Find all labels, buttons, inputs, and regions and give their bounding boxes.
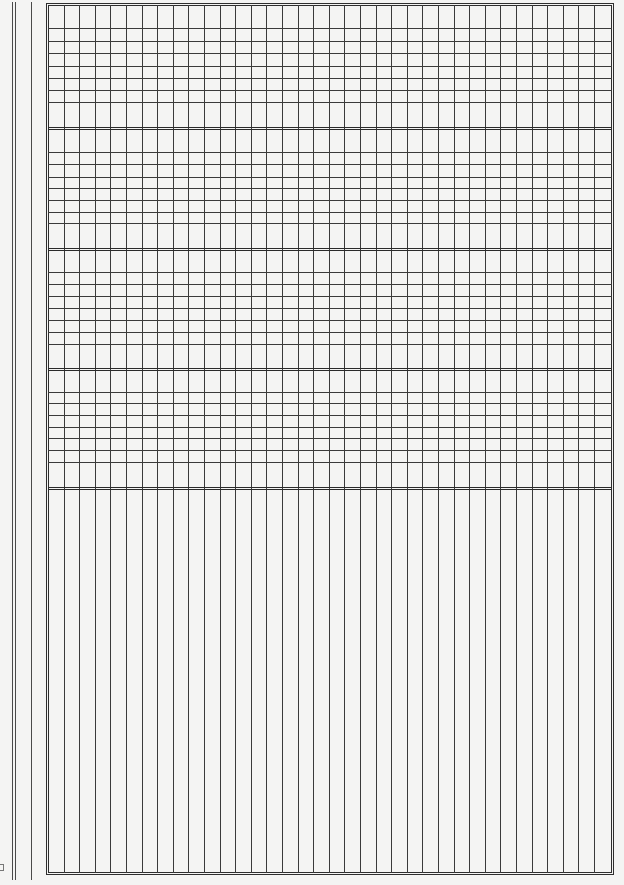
graph-paper-page bbox=[0, 0, 624, 885]
cycle-boundary-line bbox=[48, 248, 612, 249]
cycle-boundary-line bbox=[48, 127, 612, 128]
margin-rule-2 bbox=[15, 2, 16, 880]
grid-column-line bbox=[500, 5, 501, 873]
minor-grid-line bbox=[48, 427, 612, 428]
margin-rule-1 bbox=[12, 2, 13, 880]
minor-grid-line bbox=[48, 308, 612, 309]
grid-column-line bbox=[313, 5, 314, 873]
grid-column-line bbox=[391, 5, 392, 873]
minor-grid-line bbox=[48, 284, 612, 285]
minor-grid-line bbox=[48, 438, 612, 439]
grid-column-line bbox=[469, 5, 470, 873]
grid-column-line bbox=[126, 5, 127, 873]
minor-grid-line bbox=[48, 344, 612, 345]
grid-column-line bbox=[173, 5, 174, 873]
grid-column-line bbox=[157, 5, 158, 873]
grid-column-line bbox=[110, 5, 111, 873]
grid-column-line bbox=[298, 5, 299, 873]
grid-column-line bbox=[454, 5, 455, 873]
grid-column-line bbox=[485, 5, 486, 873]
minor-grid-line bbox=[48, 320, 612, 321]
cycle-boundary-line bbox=[48, 489, 612, 490]
grid-column-line bbox=[563, 5, 564, 873]
grid-column-line bbox=[282, 5, 283, 873]
grid-column-line bbox=[188, 5, 189, 873]
minor-grid-line bbox=[48, 200, 612, 201]
cycle-boundary-line bbox=[48, 370, 612, 371]
grid-column-line bbox=[422, 5, 423, 873]
grid-column-line bbox=[251, 5, 252, 873]
semi-log-grid bbox=[46, 3, 614, 875]
grid-column-line bbox=[142, 5, 143, 873]
minor-grid-line bbox=[48, 53, 612, 54]
grid-column-line bbox=[407, 5, 408, 873]
minor-grid-line bbox=[48, 28, 612, 29]
cycle-boundary-line bbox=[48, 250, 612, 251]
grid-column-line bbox=[547, 5, 548, 873]
cycle-boundary-line bbox=[48, 129, 612, 130]
minor-grid-line bbox=[48, 392, 612, 393]
grid-column-line bbox=[329, 5, 330, 873]
grid-column-line bbox=[438, 5, 439, 873]
minor-grid-line bbox=[48, 223, 612, 224]
minor-grid-line bbox=[48, 78, 612, 79]
grid-column-line bbox=[376, 5, 377, 873]
minor-grid-line bbox=[48, 296, 612, 297]
grid-column-line bbox=[532, 5, 533, 873]
minor-grid-line bbox=[48, 212, 612, 213]
grid-column-line bbox=[64, 5, 65, 873]
grid-column-line bbox=[204, 5, 205, 873]
minor-grid-line bbox=[48, 415, 612, 416]
minor-grid-line bbox=[48, 90, 612, 91]
minor-grid-line bbox=[48, 102, 612, 103]
cycle-boundary-line bbox=[48, 487, 612, 488]
grid-column-line bbox=[360, 5, 361, 873]
minor-grid-line bbox=[48, 164, 612, 165]
grid-column-line bbox=[516, 5, 517, 873]
cycle-boundary-line bbox=[48, 368, 612, 369]
grid-column-line bbox=[578, 5, 579, 873]
minor-grid-line bbox=[48, 332, 612, 333]
minor-grid-line bbox=[48, 177, 612, 178]
grid-column-line bbox=[79, 5, 80, 873]
scan-fragment-mark bbox=[0, 864, 4, 871]
grid-outer-border bbox=[46, 3, 614, 875]
minor-grid-line bbox=[48, 41, 612, 42]
grid-column-line bbox=[220, 5, 221, 873]
minor-grid-line bbox=[48, 450, 612, 451]
minor-grid-line bbox=[48, 66, 612, 67]
minor-grid-line bbox=[48, 403, 612, 404]
minor-grid-line bbox=[48, 462, 612, 463]
grid-column-line bbox=[594, 5, 595, 873]
grid-column-line bbox=[266, 5, 267, 873]
minor-grid-line bbox=[48, 272, 612, 273]
margin-rule-3 bbox=[31, 2, 32, 880]
grid-column-line bbox=[344, 5, 345, 873]
minor-grid-line bbox=[48, 188, 612, 189]
grid-inner-border bbox=[48, 5, 612, 873]
grid-column-line bbox=[95, 5, 96, 873]
minor-grid-line bbox=[48, 152, 612, 153]
grid-column-line bbox=[235, 5, 236, 873]
